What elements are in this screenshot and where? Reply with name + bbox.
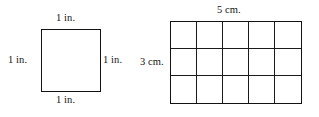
grid-cell xyxy=(223,22,249,49)
square-shape xyxy=(41,29,101,92)
figure-canvas: 1 in. 1 in. 1 in. 1 in. 5 cm. 3 cm. xyxy=(0,0,319,117)
grid-cell xyxy=(171,49,197,76)
grid-cell xyxy=(275,76,301,103)
grid-figure: 5 cm. 3 cm. xyxy=(150,0,319,117)
square-top-label: 1 in. xyxy=(56,12,75,24)
grid-left-label: 3 cm. xyxy=(140,56,164,68)
grid-cell xyxy=(223,49,249,76)
grid-cell xyxy=(249,22,275,49)
grid-cell xyxy=(197,76,223,103)
grid-cell xyxy=(249,49,275,76)
grid-cell xyxy=(171,76,197,103)
grid-cell xyxy=(275,22,301,49)
grid-top-label: 5 cm. xyxy=(217,4,241,16)
square-figure: 1 in. 1 in. 1 in. 1 in. xyxy=(0,0,150,117)
grid-cell xyxy=(171,22,197,49)
square-bottom-label: 1 in. xyxy=(56,94,75,106)
grid-cell xyxy=(197,49,223,76)
square-right-label: 1 in. xyxy=(103,54,122,66)
grid-cell xyxy=(223,76,249,103)
square-left-label: 1 in. xyxy=(8,54,27,66)
grid-cell xyxy=(275,49,301,76)
grid-shape xyxy=(170,21,302,104)
grid-cell xyxy=(249,76,275,103)
grid-cell xyxy=(197,22,223,49)
